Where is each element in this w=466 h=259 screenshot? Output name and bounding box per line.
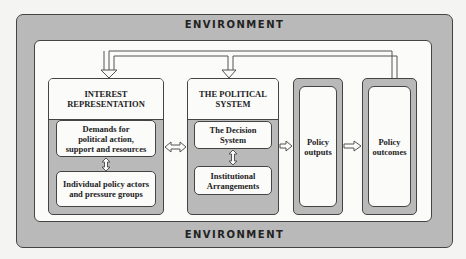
arrow-down-interest bbox=[101, 70, 117, 78]
arrow-down-political bbox=[222, 70, 236, 78]
flow-arrows bbox=[0, 0, 466, 259]
